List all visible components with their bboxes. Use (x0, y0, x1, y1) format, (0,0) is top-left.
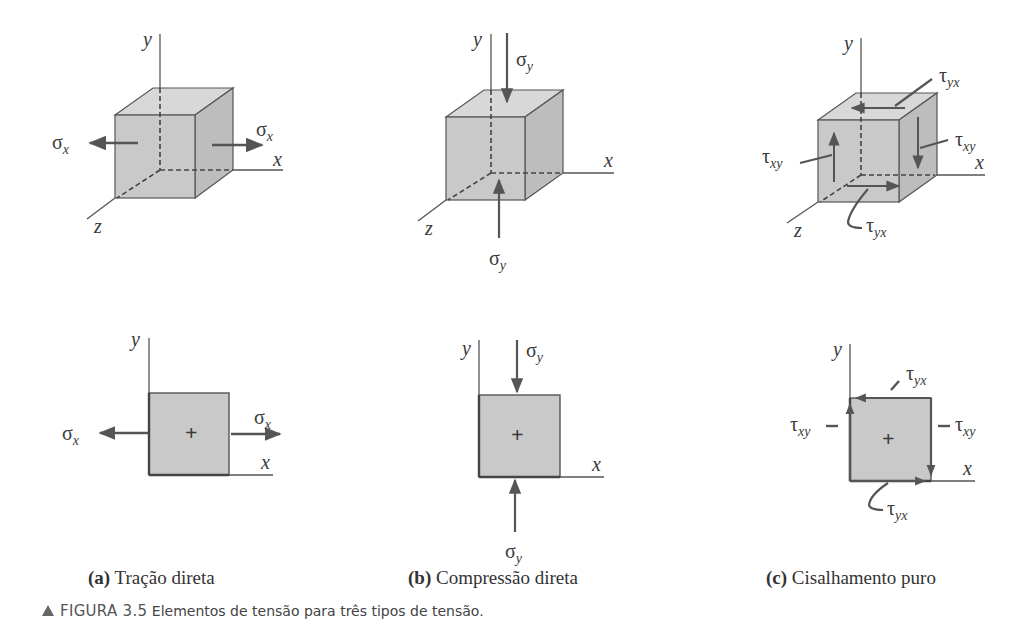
label-sigma-x-right: σx (256, 118, 274, 144)
center-plus: + (882, 426, 895, 451)
axis-label-y: y (460, 337, 471, 360)
axis-label-y: y (141, 28, 152, 51)
axis-label-y: y (129, 328, 140, 351)
label-tau-yx-bottom: τyx (887, 497, 908, 523)
panel-a-square: + y x σx σx (62, 328, 280, 475)
panel-letter: (c) (766, 567, 787, 588)
label-tau-xy-left: τxy (790, 413, 811, 439)
label-sigma-x-left: σx (62, 422, 80, 448)
label-sigma-y-bottom: σy (489, 247, 507, 273)
panel-title: Cisalhamento puro (792, 567, 936, 588)
label-sigma-y-top: σy (526, 339, 544, 365)
axis-label-x: x (260, 451, 270, 473)
figure-number: FIGURA 3.5 (60, 602, 147, 620)
label-tau-xy-right: τxy (955, 413, 976, 439)
axis-label-z: z (93, 215, 102, 237)
axis-label-x: x (272, 148, 282, 170)
label-tau-yx-bottom: τyx (866, 214, 887, 240)
axis-label-x: x (603, 149, 613, 171)
label-sigma-y-top: σy (516, 48, 534, 74)
panel-title: Tração direta (115, 567, 215, 588)
label-tau-yx-top: τyx (906, 362, 927, 388)
caption-panel-c: (c) Cisalhamento puro (766, 567, 936, 589)
center-plus: + (185, 420, 198, 445)
panel-letter: (a) (88, 567, 110, 588)
label-tau-xy-right: τxy (955, 128, 976, 154)
panel-b-cube: y x z σy σy (418, 28, 614, 273)
figure-caption-text: Elementos de tensão para três tipos de t… (152, 603, 484, 619)
axis-label-y: y (831, 338, 842, 361)
panel-c-square: + y x τyx τxy τxy τyx (790, 338, 976, 523)
figure-caption: FIGURA 3.5 Elementos de tensão para três… (42, 602, 484, 620)
stress-elements-figure: y x z σx σx y x z σy σy (0, 0, 1029, 634)
label-sigma-x-left: σx (52, 131, 70, 157)
panel-c-cube: y x z τyx τxy τxy τyx (762, 32, 985, 241)
axis-label-y: y (471, 28, 482, 51)
z-axis (787, 202, 818, 223)
panel-b-square: + y x σy σy (460, 337, 604, 566)
panel-title: Compressão direta (436, 567, 578, 588)
axis-label-x: x (974, 151, 984, 173)
axis-label-z: z (424, 217, 433, 239)
triangle-up-icon (42, 605, 54, 616)
label-sigma-x-right: σx (254, 406, 272, 432)
axis-label-z: z (793, 219, 802, 241)
caption-panel-a: (a) Tração direta (88, 567, 215, 589)
label-tau-yx-top: τyx (939, 64, 960, 90)
axis-label-x: x (962, 457, 972, 479)
panel-a-cube: y x z σx σx (52, 28, 283, 237)
caption-panel-b: (b) Compressão direta (408, 567, 578, 589)
center-plus: + (511, 422, 524, 447)
axis-label-x: x (591, 453, 601, 475)
axis-label-y: y (842, 32, 853, 55)
label-tau-xy-left: τxy (762, 145, 783, 171)
label-sigma-y-bottom: σy (505, 540, 523, 566)
panel-letter: (b) (408, 567, 431, 588)
